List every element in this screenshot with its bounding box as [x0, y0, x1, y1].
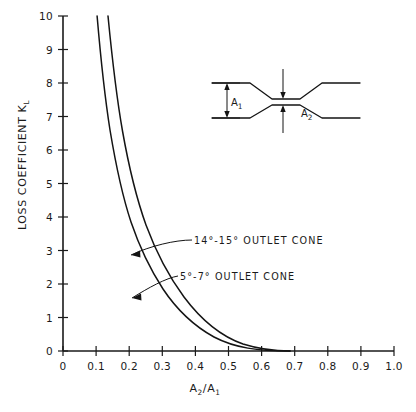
x-tick-label-1: 0.1: [87, 360, 105, 372]
y-tick-label-4: 4: [46, 211, 53, 223]
x-tick-label-9: 0.9: [352, 360, 370, 372]
y-axis-title-sub: L: [22, 100, 31, 105]
a1-arrow-top: [224, 83, 229, 90]
x-axis-title: A2/A1: [189, 382, 220, 397]
annotation-upper-group: 14°-15° OUTLET CONE: [131, 235, 324, 258]
x-tick-label-3: 0.3: [153, 360, 171, 372]
venturi-nozzle-diagram: A1 A2: [212, 69, 360, 133]
y-tick-label-6: 6: [46, 144, 53, 156]
x-tick-label-2: 0.2: [120, 360, 138, 372]
y-axis-title: LOSS COEFFICIENT KL: [16, 100, 31, 230]
x-tick-label-5: 0.5: [220, 360, 238, 372]
y-tick-label-5: 5: [46, 178, 53, 190]
curve-14-15-outlet-cone: [97, 16, 290, 351]
a2-label: A2: [301, 108, 313, 122]
y-tick-label-10: 10: [39, 10, 53, 22]
annotation-lower-group: 5°-7° OUTLET CONE: [132, 271, 295, 301]
x-tick-label-0: 0: [60, 360, 67, 372]
x-tick-label-8: 0.8: [319, 360, 337, 372]
x-tick-label-6: 0.6: [253, 360, 271, 372]
a1-arrow-bottom: [224, 111, 229, 118]
svg-text:LOSS COEFFICIENT KL: LOSS COEFFICIENT KL: [16, 100, 31, 230]
y-tick-label-9: 9: [46, 44, 53, 56]
chart-figure: 10 9 8 7 6 5 4 3 2 1 0 0 0.1: [0, 0, 416, 412]
x-axis-title-b-sub: 1: [215, 388, 220, 397]
y-tick-label-0: 0: [46, 345, 53, 357]
chart-svg: 10 9 8 7 6 5 4 3 2 1 0 0 0.1: [0, 0, 416, 412]
y-tick-label-1: 1: [46, 312, 53, 324]
x-tick-label-10: 1.0: [385, 360, 403, 372]
x-tick-label-4: 0.4: [187, 360, 205, 372]
curve-5-7-outlet-cone: [108, 16, 290, 351]
y-tick-label-8: 8: [46, 77, 53, 89]
a1-label: A1: [231, 97, 243, 111]
y-tick-label-2: 2: [46, 278, 53, 290]
x-tick-label-7: 0.7: [286, 360, 304, 372]
a2-arrow-bottom: [280, 105, 285, 112]
x-axis-title-a: A: [189, 382, 197, 395]
annotation-label-5-7-outlet-cone: 5°-7° OUTLET CONE: [180, 271, 295, 282]
annotation-label-14-15-outlet-cone: 14°-15° OUTLET CONE: [194, 235, 324, 246]
x-ticks-group: 0 0.1 0.2 0.3 0.4 0.5 0.6 0.7 0.8 0.9 1.…: [60, 346, 403, 372]
y-axis-title-main: LOSS COEFFICIENT K: [16, 104, 29, 230]
a2-arrow-top: [280, 92, 285, 99]
y-tick-label-3: 3: [46, 245, 53, 257]
svg-text:A2/A1: A2/A1: [189, 382, 220, 397]
y-tick-label-7: 7: [46, 111, 53, 123]
x-axis-title-slash: /A: [203, 382, 215, 395]
